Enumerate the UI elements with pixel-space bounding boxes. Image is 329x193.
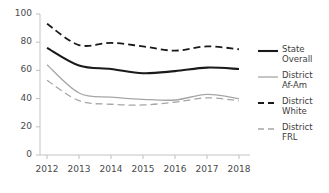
x-axis-tick-label: 2017 <box>192 164 222 174</box>
y-axis-tick-label: 0 <box>6 149 32 159</box>
x-tick-marks <box>47 155 239 159</box>
series-lines <box>47 24 239 105</box>
x-axis-tick-label: 2013 <box>64 164 94 174</box>
legend-swatch-icon <box>258 123 278 135</box>
series-line-district-frl <box>47 80 239 105</box>
legend-item-district-frl[interactable]: District FRL <box>258 122 328 142</box>
legend-item-district-af-am[interactable]: District Af-Am <box>258 70 328 90</box>
legend-swatch-icon <box>258 45 278 57</box>
y-axis-tick-label: 80 <box>6 36 32 46</box>
x-axis-tick-label: 2015 <box>128 164 158 174</box>
legend-item-district-white[interactable]: District White <box>258 96 328 116</box>
legend-swatch-icon <box>258 97 278 109</box>
x-axis-tick-label: 2012 <box>32 164 62 174</box>
y-axis-tick-label: 20 <box>6 121 32 131</box>
line-chart: 020406080100 201220132014201520162017201… <box>0 0 329 193</box>
axis-group <box>36 14 250 159</box>
y-tick-marks <box>36 14 40 155</box>
legend-swatch-icon <box>258 71 278 83</box>
legend-label: State Overall <box>282 44 312 64</box>
legend-label: District Af-Am <box>282 70 313 90</box>
series-line-district-white <box>47 24 239 51</box>
y-axis-tick-label: 60 <box>6 64 32 74</box>
legend-label: District FRL <box>282 122 313 142</box>
x-axis-tick-label: 2016 <box>160 164 190 174</box>
series-line-state-overall <box>47 48 239 73</box>
chart-legend: State OverallDistrict Af-AmDistrict Whit… <box>258 44 328 148</box>
x-axis-tick-label: 2018 <box>224 164 254 174</box>
y-axis-tick-label: 40 <box>6 93 32 103</box>
legend-item-state-overall[interactable]: State Overall <box>258 44 328 64</box>
series-line-district-af-am <box>47 65 239 101</box>
legend-label: District White <box>282 96 313 116</box>
x-axis-tick-label: 2014 <box>96 164 126 174</box>
y-axis-tick-label: 100 <box>6 8 32 18</box>
